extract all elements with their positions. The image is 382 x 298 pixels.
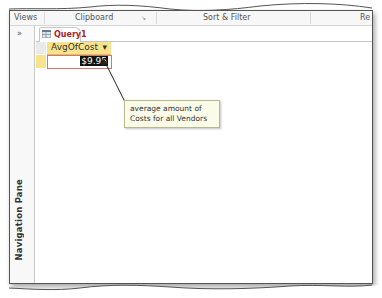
column-header-label: AvgOfCost (51, 42, 98, 52)
navigation-pane[interactable]: » Navigation Pane (10, 26, 35, 283)
select-all-corner[interactable] (36, 42, 46, 54)
ribbon-group-views[interactable]: Views (14, 13, 37, 22)
dialog-launcher-icon[interactable]: ↘ (141, 14, 146, 21)
document-area: Query1 AvgOfCost ▾ $9.95 (36, 26, 372, 283)
tab-label: Query1 (54, 30, 87, 39)
row-selector[interactable] (36, 55, 46, 68)
expand-chevron-icon[interactable]: » (17, 29, 22, 38)
ribbon-group-records[interactable]: Re (360, 13, 370, 22)
callout-line-1: average amount of (130, 104, 207, 114)
query-icon (42, 30, 51, 38)
ribbon-group-clipboard[interactable]: Clipboard (75, 13, 113, 22)
ribbon-divider (310, 12, 311, 24)
cell-value: $9.95 (80, 56, 108, 66)
tab-query1[interactable]: Query1 (39, 27, 81, 42)
callout-box: average amount of Costs for all Vendors (124, 100, 220, 128)
datasheet-cell[interactable]: $9.95 (47, 55, 112, 69)
ribbon-divider (44, 12, 45, 24)
navigation-pane-label[interactable]: Navigation Pane (14, 179, 24, 261)
access-window: Views Clipboard ↘ Sort & Filter Re » Nav… (9, 10, 373, 284)
document-tab-strip: Query1 (36, 26, 372, 42)
callout-line-2: Costs for all Vendors (130, 114, 207, 124)
column-dropdown-icon[interactable]: ▾ (102, 42, 107, 52)
ribbon-group-sort-filter[interactable]: Sort & Filter (203, 13, 251, 22)
callout-text: average amount of Costs for all Vendors (130, 104, 207, 124)
ribbon-group-labels: Views Clipboard ↘ Sort & Filter Re (10, 11, 372, 26)
ribbon-divider (156, 12, 157, 24)
column-header-avgofcost[interactable]: AvgOfCost ▾ (47, 42, 111, 55)
